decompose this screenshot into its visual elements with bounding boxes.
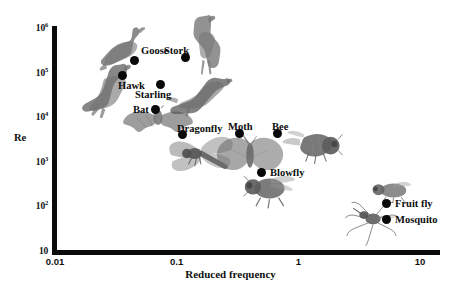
y-tick-label: 105 xyxy=(20,68,48,78)
data-point-goose xyxy=(130,56,139,65)
y-tick-label: 103 xyxy=(20,157,48,167)
y-tick-label: 102 xyxy=(20,201,48,211)
y-axis-title: Re xyxy=(14,132,26,143)
x-tick-mark xyxy=(419,250,421,255)
x-axis-title: Reduced frequency xyxy=(0,268,461,280)
mosquito-illustration xyxy=(344,198,399,246)
data-point-blowfly xyxy=(257,168,266,177)
y-tick-label: 106 xyxy=(20,23,48,33)
x-tick-label: 0.1 xyxy=(157,256,197,267)
data-point-mosquito xyxy=(382,215,391,224)
data-point-label-mosquito: Mosquito xyxy=(395,214,438,225)
x-tick-mark xyxy=(297,250,299,255)
y-tick-label: 10 xyxy=(20,246,48,256)
data-point-label-bat: Bat xyxy=(133,104,149,115)
data-point-starling xyxy=(156,80,165,89)
reynolds-number-vs-reduced-frequency-chart: Re Reduced frequency 10102103104105106 0… xyxy=(0,0,461,294)
x-tick-label: 0.01 xyxy=(35,256,75,267)
x-axis-line xyxy=(52,250,440,255)
y-axis-line xyxy=(52,26,57,255)
data-point-label-fruit-fly: Fruit fly xyxy=(395,198,433,209)
data-point-hawk xyxy=(118,71,127,80)
data-point-label-dragonfly: Dragonfly xyxy=(177,123,223,134)
x-tick-label: 1 xyxy=(278,256,318,267)
data-point-label-moth: Moth xyxy=(228,121,253,132)
data-point-fruit-fly xyxy=(382,199,391,208)
data-point-bat xyxy=(151,105,160,114)
bee-illustration xyxy=(282,128,347,168)
x-tick-mark xyxy=(176,250,178,255)
data-point-label-starling: Starling xyxy=(135,89,171,100)
data-point-label-stork: Stork xyxy=(164,45,189,56)
x-tick-label: 10 xyxy=(400,256,440,267)
data-point-label-blowfly: Blowfly xyxy=(270,167,304,178)
y-tick-label: 104 xyxy=(20,112,48,122)
data-point-label-bee: Bee xyxy=(272,121,288,132)
